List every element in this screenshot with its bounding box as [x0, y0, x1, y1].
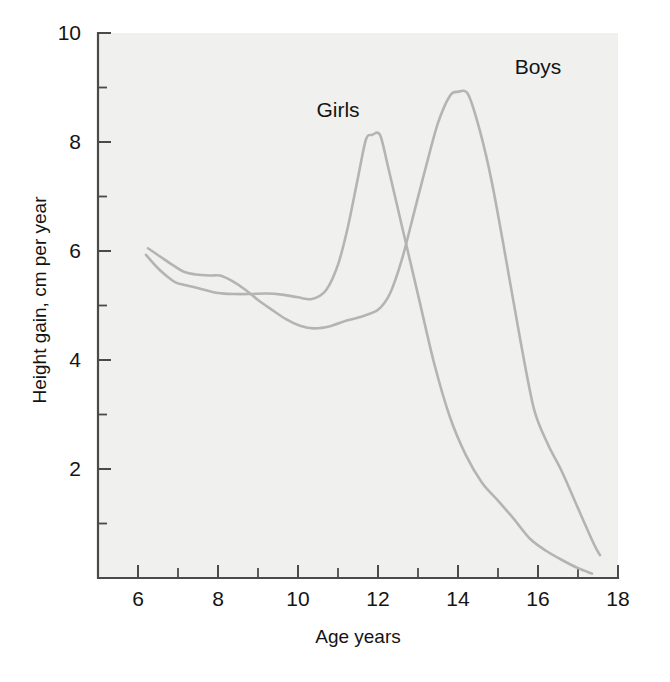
y-tick-label: 8: [69, 130, 81, 153]
growth-velocity-chart: 246810 681012141618 GirlsBoys Age years …: [0, 0, 670, 682]
x-tick-label: 10: [286, 587, 309, 610]
x-tick-label: 14: [446, 587, 470, 610]
y-tick-label: 10: [58, 21, 81, 44]
y-tick-label: 4: [69, 348, 81, 371]
series-label-girls: Girls: [316, 98, 359, 121]
series-label-boys: Boys: [515, 55, 562, 78]
x-tick-label: 6: [132, 587, 144, 610]
x-tick-label: 16: [526, 587, 549, 610]
x-tick-label: 8: [212, 587, 224, 610]
y-tick-label: 6: [69, 239, 81, 262]
chart-figure: 246810 681012141618 GirlsBoys Age years …: [0, 0, 670, 682]
x-axis-title: Age years: [315, 626, 401, 647]
y-axis-title: Height gain, cm per year: [29, 196, 50, 404]
x-tick-label: 12: [366, 587, 389, 610]
x-tick-label: 18: [606, 587, 629, 610]
y-tick-label: 2: [69, 457, 81, 480]
